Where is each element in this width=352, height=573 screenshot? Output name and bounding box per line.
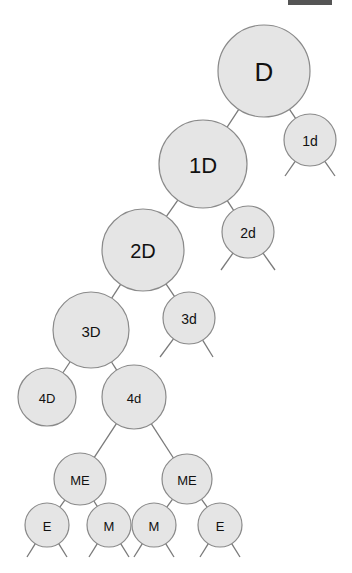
node-4D: 4D	[18, 368, 76, 426]
leg-3d-1	[203, 340, 213, 357]
leg-2d-1	[263, 253, 275, 270]
edge-D-1d	[290, 109, 296, 118]
node-label: 3d	[181, 311, 197, 327]
node-label: 4D	[39, 391, 56, 406]
node-label: M	[104, 519, 115, 534]
edge-ME1-M1	[94, 501, 97, 506]
edge-2D-3D	[112, 284, 121, 298]
edge-D-1D	[227, 109, 239, 127]
edge-1D-2D	[166, 200, 177, 216]
node-1d: 1d	[284, 114, 336, 166]
node-label: 3D	[81, 323, 100, 340]
edge-ME2-M2	[167, 499, 173, 507]
node-4d: 4d	[102, 365, 166, 429]
node-label: 4d	[127, 391, 141, 406]
edge-ME1-E1	[60, 500, 65, 507]
node-2d: 2d	[222, 206, 274, 258]
leg-2d-0	[221, 253, 233, 270]
leg-1d-1	[325, 161, 335, 176]
edge-2D-3d	[166, 284, 174, 297]
edge-4d-ME1	[94, 424, 116, 458]
node-1D: 1D	[159, 120, 247, 208]
leg-1d-0	[285, 161, 295, 176]
leg-M1-1	[121, 544, 129, 557]
tree-diagram: D1d1D2d2D3d3D4D4dMEMEEMME	[0, 0, 352, 573]
node-label: 1D	[189, 153, 217, 178]
node-label: ME	[70, 473, 90, 488]
node-3D: 3D	[53, 292, 129, 368]
node-label: 2D	[130, 240, 156, 262]
node-label: 1d	[302, 133, 318, 149]
edge-1D-2d	[227, 201, 233, 211]
leg-E2-1	[232, 544, 240, 557]
leg-E1-0	[27, 544, 35, 557]
node-ME2: ME	[162, 454, 212, 504]
leg-M1-0	[89, 544, 97, 557]
node-3d: 3d	[163, 292, 215, 344]
node-D: D	[218, 25, 310, 117]
node-2D: 2D	[102, 209, 184, 291]
leg-E2-0	[200, 544, 208, 557]
node-label: M	[149, 519, 160, 534]
node-M1: M	[87, 503, 131, 547]
nodes-layer: D1d1D2d2D3d3D4D4dMEMEEMME	[18, 25, 336, 547]
node-M2: M	[132, 503, 176, 547]
node-label: E	[216, 519, 225, 534]
leg-3d-0	[160, 339, 173, 357]
node-E2: E	[198, 503, 242, 547]
node-label: 2d	[240, 225, 256, 241]
edge-4d-ME2	[151, 424, 173, 458]
leg-M2-1	[166, 544, 174, 557]
leg-M2-0	[134, 544, 142, 557]
leg-E1-1	[59, 544, 67, 557]
node-E1: E	[25, 503, 69, 547]
node-label: D	[255, 57, 274, 87]
edge-3D-4d	[112, 362, 117, 370]
edge-ME2-E2	[202, 499, 208, 507]
node-ME1: ME	[54, 453, 106, 505]
edge-3D-4D	[63, 362, 70, 373]
node-label: ME	[177, 473, 197, 488]
node-label: E	[43, 519, 52, 534]
